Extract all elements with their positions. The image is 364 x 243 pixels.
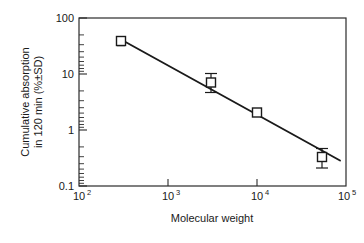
data-point-1 [117,37,126,46]
x-tick-base-1e5: 10 [338,190,350,202]
y-tick-label-10: 10 [62,68,74,80]
x-tick-base-1e2: 10 [73,190,85,202]
figure-background [0,0,364,243]
y-axis-title: Cumulative absorption in 120 min (%±SD) [19,47,44,156]
x-axis-title: Molecular weight [171,212,254,224]
y-axis-title-line1: Cumulative absorption [19,47,31,156]
y-tick-label-1: 1 [68,124,74,136]
x-tick-exp-1e5: 5 [352,188,356,197]
y-tick-label-100: 100 [56,12,74,24]
marker-square-4 [318,153,327,162]
marker-square-1 [117,37,126,46]
x-tick-exp-1e4: 4 [265,188,269,197]
x-tick-base-1e3: 10 [162,190,174,202]
chart-figure: 100 10 1 0.1 10 2 10 3 10 4 10 5 Molecul… [0,0,364,243]
y-tick-label-0-1: 0.1 [59,180,74,192]
x-tick-base-1e4: 10 [251,190,263,202]
y-axis-title-line2: in 120 min (%±SD) [32,56,44,148]
x-tick-exp-1e3: 3 [176,188,180,197]
x-tick-exp-1e2: 2 [87,188,91,197]
data-point-3 [253,108,262,117]
marker-square-3 [253,108,262,117]
marker-square-2 [207,78,216,87]
